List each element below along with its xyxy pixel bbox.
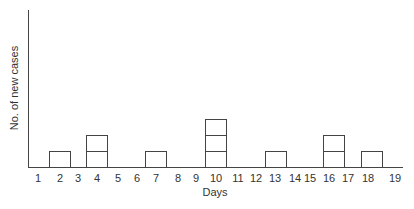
x-axis-label: Days [202,186,227,198]
x-tick-label: 4 [94,172,100,184]
x-tick-label: 12 [250,172,262,184]
case-box [205,119,227,136]
case-box [265,151,287,168]
x-tick-label: 6 [134,172,140,184]
x-tick-label: 18 [362,172,374,184]
x-tick-label: 11 [232,172,243,184]
x-tick-label: 7 [153,172,159,184]
case-box [205,151,227,168]
x-tick-label: 15 [304,172,316,184]
x-tick-label: 3 [75,172,81,184]
x-tick-label: 17 [342,172,354,184]
case-box [49,151,71,168]
case-box [361,151,383,168]
epidemic-curve-chart: No. of new cases 12345678910111213141516… [0,0,414,209]
case-box [205,135,227,152]
y-axis [28,10,29,168]
x-tick-label: 16 [323,172,335,184]
case-box [323,151,345,168]
x-tick-label: 10 [210,172,222,184]
case-box [145,151,167,168]
case-box [86,135,108,152]
x-tick-label: 2 [57,172,63,184]
x-tick-label: 9 [193,172,199,184]
x-tick-label: 13 [269,172,281,184]
x-tick-label: 5 [115,172,121,184]
x-tick-label: 14 [289,172,301,184]
x-tick-label: 1 [35,172,41,184]
x-tick-label: 8 [175,172,181,184]
case-box [323,135,345,152]
y-axis-label: No. of new cases [8,46,20,130]
case-box [86,151,108,168]
x-tick-label: 19 [389,172,401,184]
